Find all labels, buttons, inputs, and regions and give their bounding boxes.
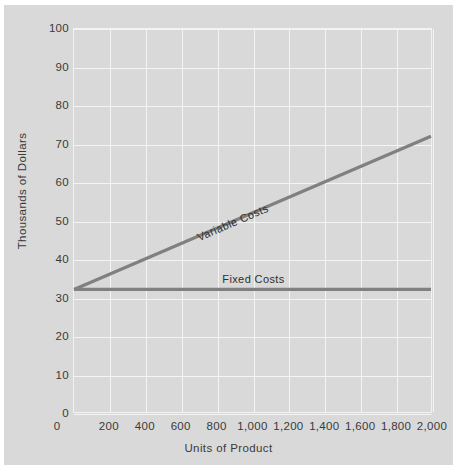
y-tick-label: 40 [29, 253, 69, 265]
series-layer [74, 29, 431, 412]
x-tick-label: 1,000 [237, 420, 267, 432]
series-annotation-fixed-costs: Fixed Costs [222, 273, 284, 285]
y-tick-label: 10 [29, 369, 69, 381]
gridline-horizontal [74, 414, 431, 415]
chart-figure: Thousands of Dollars 0102030405060708090… [4, 5, 453, 465]
gridline-vertical [433, 29, 434, 412]
y-axis-tick-labels: 0102030405060708090100 [24, 28, 69, 413]
x-tick-label: 2,000 [417, 420, 447, 432]
y-tick-label: 90 [29, 61, 69, 73]
y-tick-label: 80 [29, 99, 69, 111]
plot-area: Variable CostsFixed Costs [73, 28, 432, 413]
x-tick-label: 1,600 [345, 420, 375, 432]
y-tick-label: 60 [29, 176, 69, 188]
x-tick-label: 400 [135, 420, 155, 432]
y-tick-label: 50 [29, 215, 69, 227]
y-tick-label: 20 [29, 330, 69, 342]
x-axis-origin-label: 0 [54, 420, 61, 432]
x-tick-label: 600 [171, 420, 191, 432]
y-tick-label: 70 [29, 138, 69, 150]
x-tick-label: 200 [99, 420, 119, 432]
x-axis-tick-labels: 2004006008001,0001,2001,4001,6001,8002,0… [73, 420, 432, 438]
y-tick-label: 0 [29, 407, 69, 419]
x-tick-label: 800 [207, 420, 227, 432]
y-tick-label: 100 [29, 22, 69, 34]
x-tick-label: 1,800 [381, 420, 411, 432]
x-tick-label: 1,200 [273, 420, 303, 432]
x-tick-label: 1,400 [309, 420, 339, 432]
y-tick-label: 30 [29, 292, 69, 304]
x-axis-title: Units of Product [4, 442, 453, 454]
